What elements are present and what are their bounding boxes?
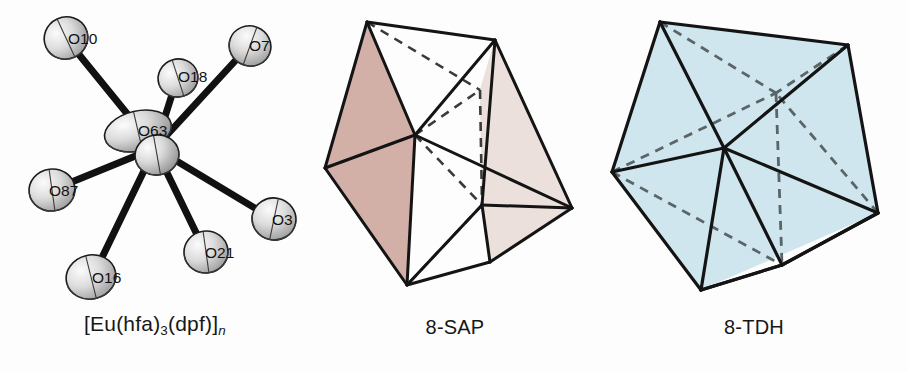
- atom-label-o63: O63: [138, 122, 167, 139]
- panel-ortep-structure: O10 O18 O7 O63 O87 O3 O16 O21 [Eu(hfa)3(…: [0, 0, 310, 372]
- ortep-diagram: O10 O18 O7 O63 O87 O3 O16 O21: [0, 0, 310, 310]
- formula-subscript-3: 3: [160, 323, 168, 338]
- caption-tdh: 8-TDH: [600, 316, 908, 339]
- atom-label-o87: O87: [49, 182, 78, 199]
- sap-face-right-lower: [482, 205, 572, 262]
- formula-part-2: (dpf)]: [168, 312, 218, 335]
- panel-sap-polyhedron: 8-SAP: [310, 0, 600, 372]
- formula-subscript-n: n: [218, 323, 226, 338]
- caption-ortep-formula: [Eu(hfa)3(dpf)]n: [0, 312, 310, 338]
- atom-label-o16: O16: [92, 269, 121, 286]
- caption-sap: 8-SAP: [310, 316, 600, 339]
- sap-polyhedron-diagram: [310, 0, 600, 310]
- atom-label-o10: O10: [68, 30, 98, 47]
- atom-label-o7: O7: [249, 37, 270, 54]
- formula-part-1: [Eu(hfa): [84, 312, 160, 335]
- panel-tdh-polyhedron: 8-TDH: [600, 0, 908, 372]
- sap-edge-diag-9: [407, 205, 482, 285]
- sap-edge-top: [367, 22, 495, 40]
- atom-label-o18: O18: [178, 68, 207, 85]
- tdh-polyhedron-diagram: [600, 0, 908, 310]
- atom-label-o21: O21: [205, 244, 234, 261]
- scientific-figure: O10 O18 O7 O63 O87 O3 O16 O21 [Eu(hfa)3(…: [0, 0, 908, 372]
- atom-label-o3: O3: [272, 211, 293, 228]
- sap-hidden-edge-5: [415, 135, 482, 205]
